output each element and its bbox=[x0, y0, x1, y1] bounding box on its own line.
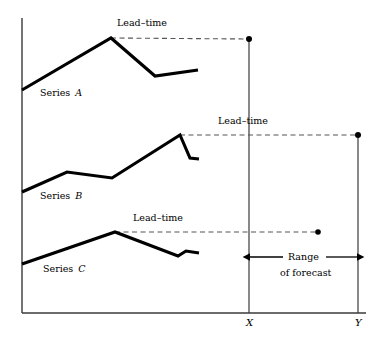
forecast-dot-series-b bbox=[355, 132, 361, 138]
series-label-b: SeriesB bbox=[40, 191, 82, 201]
series-label-b-word: Series bbox=[40, 190, 70, 201]
series-line-c bbox=[22, 232, 199, 264]
series-label-a-name: A bbox=[70, 87, 82, 98]
lead-time-label-series-a: Lead–time bbox=[117, 18, 167, 28]
series-label-b-name: B bbox=[70, 190, 82, 201]
lead-time-line-series-a bbox=[111, 38, 249, 39]
lead-time-lines bbox=[111, 38, 358, 232]
lead-time-label-series-c: Lead–time bbox=[133, 213, 183, 223]
series-label-c: SeriesC bbox=[43, 264, 86, 274]
series-line-b bbox=[22, 135, 199, 192]
forecast-lead-time-diagram bbox=[0, 0, 375, 340]
range-of-forecast-line2: of forecast bbox=[280, 268, 331, 278]
series-label-c-word: Series bbox=[43, 263, 73, 274]
figure-canvas: Lead–time Lead–time Lead–time SeriesA Se… bbox=[0, 0, 375, 340]
range-of-forecast-line1: Range bbox=[288, 252, 319, 262]
forecast-dot-series-a bbox=[246, 36, 252, 42]
series-label-a: SeriesA bbox=[40, 88, 82, 98]
series-label-a-word: Series bbox=[40, 87, 70, 98]
y-marker-label: Y bbox=[355, 318, 362, 328]
series-lines bbox=[22, 38, 199, 264]
forecast-dot-series-c bbox=[315, 229, 321, 235]
lead-time-label-series-b: Lead–time bbox=[218, 116, 268, 126]
series-line-a bbox=[22, 38, 198, 90]
series-label-c-name: C bbox=[73, 263, 85, 274]
x-marker-label: X bbox=[246, 318, 253, 328]
